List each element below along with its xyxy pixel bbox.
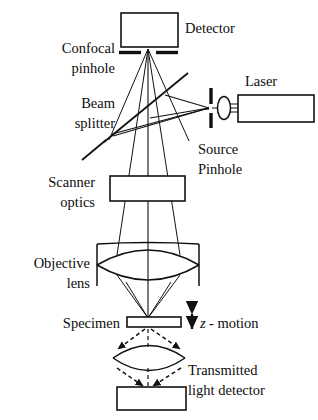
specimen-slide [127, 317, 181, 327]
detection-ray-cone [109, 49, 189, 255]
beam-splitter-leader-line [82, 140, 106, 160]
transmitted-light-rays [117, 329, 181, 386]
transmitted-detector-box [117, 387, 186, 410]
laser-collimator-lens [212, 97, 239, 120]
confocal-microscope-diagram: Detector Confocal pinhole Beam splitter … [0, 0, 318, 420]
condenser-lens [113, 346, 185, 371]
label-beam-splitter-line1: Beam [81, 95, 116, 111]
label-scanner-optics-line1: Scanner [48, 174, 95, 190]
label-objective-lens-line2: lens [67, 275, 91, 291]
label-transmitted-line1: Transmitted [188, 362, 258, 378]
label-scanner-optics-line2: optics [60, 194, 95, 210]
label-laser: Laser [245, 73, 277, 89]
beam-splitter [104, 73, 188, 142]
laser-box [238, 95, 314, 122]
label-specimen: Specimen [63, 315, 121, 331]
label-z-motion-text: - motion [209, 315, 259, 331]
label-objective-lens-line1: Objective [34, 255, 90, 271]
label-source-pinhole-line1: Source [198, 141, 238, 157]
label-transmitted-line2: light detector [188, 382, 265, 398]
label-confocal-pinhole-line2: pinhole [72, 60, 116, 76]
label-source-pinhole-line2: Pinhole [198, 161, 242, 177]
label-detector: Detector [185, 20, 235, 36]
label-confocal-pinhole-line1: Confocal [62, 40, 115, 56]
detector-box [121, 13, 178, 47]
label-beam-splitter-line2: splitter [75, 115, 115, 131]
label-z-motion-symbol: z [199, 315, 206, 331]
optics-schematic-svg: Detector Confocal pinhole Beam splitter … [0, 0, 318, 420]
scanner-optics-box [110, 176, 185, 201]
